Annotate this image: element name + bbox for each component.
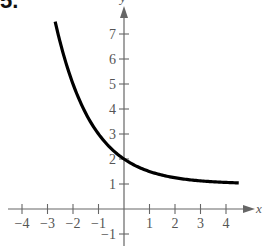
function-curve (55, 22, 239, 183)
y-tick-label: 6 (109, 52, 116, 67)
x-tick-label: −2 (66, 216, 81, 231)
axes: xy (8, 0, 262, 246)
x-axis-label: x (255, 201, 262, 216)
y-tick-label: 7 (109, 27, 116, 42)
y-axis-arrow-icon (120, 6, 128, 18)
x-tick-label: −3 (40, 216, 55, 231)
x-tick-label: 2 (172, 216, 179, 231)
x-tick-label: 1 (146, 216, 153, 231)
y-tick-label: 5 (109, 77, 116, 92)
y-tick-label: −1 (101, 227, 116, 242)
x-tick-label: 3 (197, 216, 204, 231)
x-tick-label: 4 (223, 216, 230, 231)
x-tick-label: −4 (15, 216, 30, 231)
x-axis-arrow-icon (243, 205, 255, 213)
y-tick-label: 4 (109, 102, 116, 117)
y-axis-label: y (118, 0, 126, 5)
y-tick-label: 1 (109, 177, 116, 192)
function-graph: xy −4−3−2−11234−11234567 (0, 0, 264, 250)
y-tick-label: 2 (109, 152, 116, 167)
y-tick-label: 3 (109, 127, 116, 142)
axis-ticks: −4−3−2−11234−11234567 (15, 27, 230, 242)
curve (55, 22, 239, 183)
